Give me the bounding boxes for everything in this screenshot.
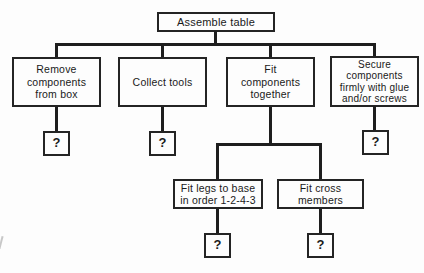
connector-stem-q-remove [55, 107, 58, 131]
node-fit-components: Fit components together [226, 57, 315, 107]
placeholder-box-fit-cross: ? [307, 233, 334, 258]
node-assemble-table-label: Assemble table [177, 16, 255, 29]
placeholder-box-remove: ? [43, 131, 70, 156]
placeholder-question-mark: ? [213, 239, 221, 252]
connector-fit-stem [269, 107, 272, 145]
node-remove-components: Remove components from box [12, 57, 101, 107]
placeholder-box-collect: ? [149, 131, 176, 156]
connector-stem-q-collect [161, 107, 164, 131]
node-assemble-table: Assemble table [157, 12, 275, 32]
connector-sub-horizontal [216, 143, 322, 146]
node-fit-components-label: Fit components together [241, 63, 300, 101]
flowchart-canvas: Assemble table Remove components from bo… [0, 0, 424, 273]
node-fit-legs: Fit legs to base in order 1-2-4-3 [173, 179, 263, 209]
node-collect-tools: Collect tools [118, 57, 207, 107]
node-collect-tools-label: Collect tools [133, 76, 193, 89]
connector-drop-secure [373, 44, 376, 56]
connector-drop-fit-cross [319, 144, 322, 179]
connector-drop-collect [161, 44, 164, 57]
connector-drop-fit-legs [216, 144, 219, 179]
placeholder-question-mark: ? [371, 136, 379, 149]
connector-drop-remove [55, 44, 58, 57]
placeholder-box-secure: ? [362, 130, 389, 155]
connector-main-horizontal [55, 43, 376, 46]
node-fit-cross-members: Fit cross members [277, 179, 364, 209]
connector-stem-q-fit-cross [319, 209, 322, 233]
placeholder-question-mark: ? [316, 239, 324, 252]
node-remove-components-label: Remove components from box [27, 63, 86, 101]
node-secure-components: Secure components firmly with glue and/o… [330, 56, 419, 107]
placeholder-box-fit-legs: ? [204, 233, 231, 258]
connector-drop-fit [269, 44, 272, 57]
node-fit-legs-label: Fit legs to base in order 1-2-4-3 [180, 182, 256, 207]
node-secure-components-label: Secure components firmly with glue and/o… [340, 59, 409, 105]
placeholder-question-mark: ? [158, 137, 166, 150]
connector-stem-q-fit-legs [216, 209, 219, 233]
connector-stem-q-secure [373, 106, 376, 130]
node-fit-cross-members-label: Fit cross members [298, 182, 343, 207]
scan-artifact [0, 236, 4, 249]
placeholder-question-mark: ? [52, 137, 60, 150]
